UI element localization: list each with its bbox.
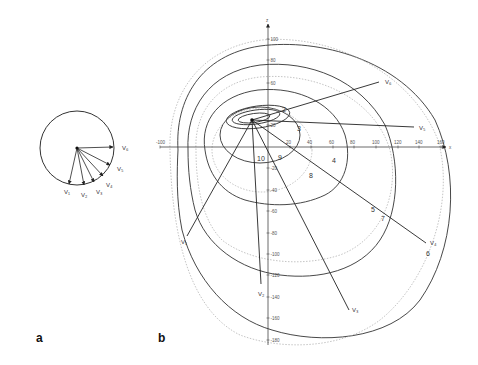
panel-b-vectors: V₁V₂V₃V₄V₅V₆ (181, 79, 437, 313)
z-axis-label: z (266, 18, 269, 23)
panel-a-vectors: V₁V₂V₃V₄V₅V₆ (64, 145, 129, 198)
z-tick-label: -180 (271, 338, 281, 343)
contour-number: 5 (371, 206, 375, 213)
vector-label-v1: V₁ (64, 189, 70, 195)
vector-v4 (77, 148, 103, 176)
contour-number: 7 (381, 215, 385, 222)
vector-label-v3: V₃ (352, 307, 359, 313)
vector-label-v4: V₄ (430, 240, 437, 246)
panel-label-a: a (36, 331, 43, 345)
z-tick-label: -140 (271, 295, 281, 300)
x-tick-label: 100 (372, 140, 380, 145)
z-tick-label: 20 (271, 123, 277, 128)
vector-label-v5: V₅ (117, 166, 124, 172)
vector-v3 (252, 120, 349, 310)
contour-number: 4 (332, 157, 336, 164)
z-tick-label: -160 (271, 316, 281, 321)
panel-a: V₁V₂V₃V₄V₅V₆ a (36, 111, 129, 345)
contour-number: 2 (282, 106, 286, 113)
figure: V₁V₂V₃V₄V₅V₆ a x z -10020406080100120140… (0, 0, 478, 365)
vector-label-v3: V₃ (96, 189, 103, 195)
z-tick-label: -120 (271, 273, 281, 278)
panel-b: x z -10020406080100120140160 100806020-2… (156, 18, 452, 345)
contour-number: 3 (297, 125, 301, 132)
vector-v6 (77, 147, 113, 148)
vector-v1 (69, 148, 77, 184)
vector-v6 (252, 82, 379, 120)
vector-label-v2: V₂ (258, 291, 265, 297)
trajectory-curves (177, 44, 450, 337)
z-tick-label: -40 (271, 188, 278, 193)
z-tick-label: -80 (271, 231, 278, 236)
x-tick-label: 140 (415, 140, 423, 145)
vector-v4 (252, 120, 426, 243)
contour-number: 8 (309, 172, 313, 179)
vector-label-v1: V₁ (181, 239, 187, 245)
vector-label-v5: V₅ (419, 125, 426, 131)
x-axis-label: x (449, 145, 452, 150)
vector-v2 (77, 148, 84, 185)
vector-v5 (77, 148, 110, 165)
z-tick-label: 100 (271, 37, 279, 42)
vector-label-v4: V₄ (106, 182, 113, 188)
vector-v3 (77, 148, 94, 182)
curve-6 (177, 44, 450, 337)
contour-number: 9 (278, 154, 282, 161)
x-tick-label: 160 (437, 140, 445, 145)
center-point (75, 146, 78, 149)
hub-point (250, 118, 254, 122)
vector-label-v2: V₂ (81, 192, 88, 198)
curve-5 (188, 64, 396, 276)
z-tick-label: 80 (271, 58, 277, 63)
z-tick-label: 60 (271, 81, 277, 86)
x-tick-label: 80 (350, 140, 356, 145)
x-tick-label: 60 (329, 140, 335, 145)
x-tick-label: 120 (394, 140, 402, 145)
vector-label-v6: V₆ (385, 79, 392, 85)
panel-label-b: b (158, 331, 165, 345)
contour-number: 6 (426, 250, 430, 257)
vector-label-v6: V₆ (122, 145, 129, 151)
vector-v1 (187, 120, 252, 236)
contour-number: 10 (257, 155, 265, 162)
z-tick-label: -100 (271, 252, 281, 257)
x-tick-label: 40 (307, 140, 313, 145)
z-tick-label: -60 (271, 209, 278, 214)
x-tick-label: -100 (156, 140, 166, 145)
dotted-curves (170, 39, 443, 344)
